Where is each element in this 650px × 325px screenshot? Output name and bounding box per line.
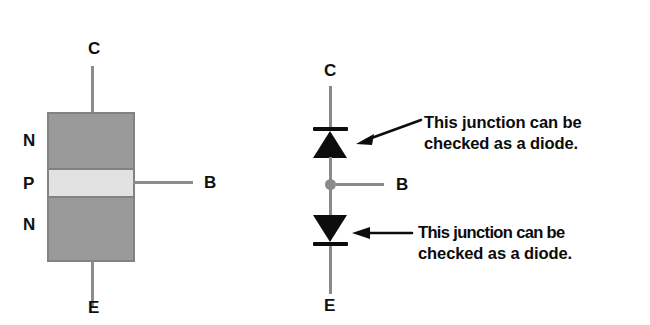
lower-callout-line2: checked as a diode. (418, 243, 572, 264)
lower-callout-arrow-icon (0, 0, 650, 325)
lower-callout-line1: This junction can be (418, 222, 565, 243)
figure-canvas: C N P N B E C B (0, 0, 650, 325)
